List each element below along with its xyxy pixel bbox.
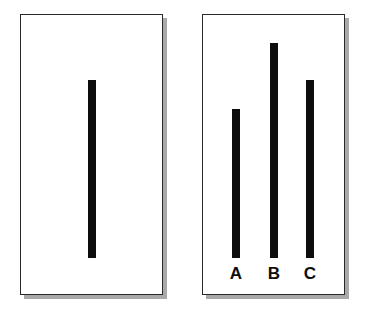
comparison-line-a (232, 109, 240, 258)
comparison-lines-card: A B C (202, 14, 345, 295)
line-label-c: C (300, 265, 320, 282)
line-label-b: B (264, 265, 284, 282)
reference-line (88, 80, 96, 258)
comparison-line-b (270, 43, 278, 258)
line-label-a: A (226, 265, 246, 282)
reference-line-card (20, 14, 163, 295)
comparison-line-c (306, 80, 314, 258)
